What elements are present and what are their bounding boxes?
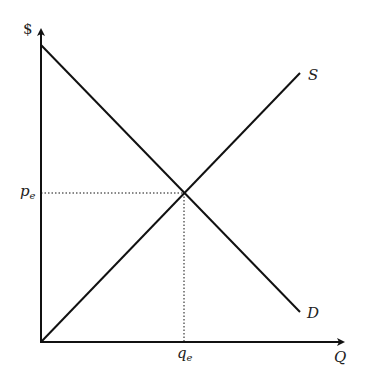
y-axis-label: $	[23, 20, 33, 38]
demand-curve	[41, 45, 300, 312]
supply-demand-diagram: $ Q S D pe qe	[0, 0, 369, 379]
equilibrium-quantity-label: qe	[177, 344, 193, 363]
supply-curve	[41, 73, 300, 342]
demand-label: D	[306, 304, 319, 322]
equilibrium-price-label: pe	[20, 182, 36, 201]
x-axis-label: Q	[334, 348, 346, 366]
supply-label: S	[308, 66, 318, 84]
